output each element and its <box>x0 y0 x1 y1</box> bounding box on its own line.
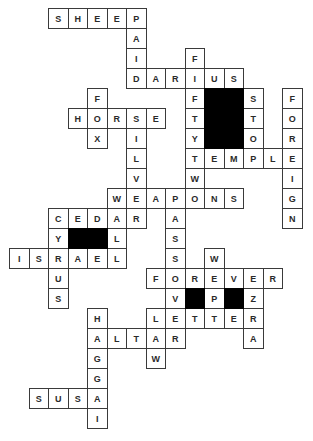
crossword-cell[interactable]: D <box>126 68 147 89</box>
crossword-cell[interactable]: R <box>282 128 303 149</box>
crossword-cell[interactable]: E <box>282 148 303 169</box>
crossword-cell[interactable]: S <box>243 88 264 109</box>
crossword-cell[interactable]: H <box>87 308 108 329</box>
crossword-cell[interactable]: A <box>165 208 186 229</box>
crossword-cell[interactable]: W <box>204 248 225 269</box>
crossword-cell[interactable]: P <box>126 8 147 29</box>
crossword-cell[interactable]: T <box>185 148 206 169</box>
crossword-cell[interactable]: I <box>126 128 147 149</box>
crossword-cell[interactable]: R <box>165 328 186 349</box>
crossword-cell[interactable]: W <box>107 188 128 209</box>
crossword-cell[interactable]: P <box>243 148 264 169</box>
crossword-cell[interactable]: E <box>68 208 89 229</box>
crossword-cell[interactable]: O <box>87 108 108 129</box>
crossword-cell[interactable]: W <box>146 348 167 369</box>
crossword-cell[interactable]: E <box>87 248 108 269</box>
crossword-cell[interactable]: S <box>126 108 147 129</box>
crossword-cell[interactable]: L <box>107 328 128 349</box>
crossword-cell[interactable]: U <box>48 388 69 409</box>
crossword-cell[interactable]: T <box>204 308 225 329</box>
crossword-cell[interactable]: E <box>165 308 186 329</box>
crossword-cell[interactable]: U <box>48 268 69 289</box>
crossword-cell[interactable]: R <box>185 268 206 289</box>
crossword-cell[interactable]: F <box>87 88 108 109</box>
crossword-cell[interactable]: A <box>146 68 167 89</box>
crossword-cell[interactable]: S <box>165 228 186 249</box>
crossword-cell[interactable]: L <box>107 228 128 249</box>
crossword-cell[interactable]: R <box>126 208 147 229</box>
crossword-cell[interactable]: S <box>48 8 69 29</box>
crossword-cell[interactable]: T <box>243 108 264 129</box>
crossword-cell[interactable]: T <box>185 108 206 129</box>
crossword-cell[interactable]: S <box>29 388 50 409</box>
crossword-cell[interactable]: V <box>165 288 186 309</box>
crossword-cell[interactable]: I <box>126 48 147 69</box>
crossword-cell[interactable]: L <box>126 148 147 169</box>
crossword-cell[interactable]: I <box>87 408 108 429</box>
crossword-cell[interactable]: V <box>224 268 245 289</box>
crossword-cell[interactable]: M <box>224 148 245 169</box>
crossword-cell[interactable]: L <box>146 308 167 329</box>
crossword-cell[interactable]: E <box>87 8 108 29</box>
crossword-cell[interactable]: L <box>263 148 284 169</box>
crossword-cell[interactable]: I <box>282 168 303 189</box>
crossword-cell[interactable]: T <box>126 328 147 349</box>
crossword-cell[interactable]: E <box>243 268 264 289</box>
crossword-cell[interactable]: A <box>87 328 108 349</box>
crossword-cell[interactable]: S <box>48 288 69 309</box>
crossword-cell[interactable]: O <box>282 108 303 129</box>
crossword-cell[interactable]: O <box>165 268 186 289</box>
crossword-cell[interactable]: F <box>146 268 167 289</box>
crossword-cell[interactable]: A <box>243 328 264 349</box>
crossword-cell[interactable]: X <box>87 128 108 149</box>
crossword-cell[interactable]: N <box>204 188 225 209</box>
crossword-cell[interactable]: S <box>165 248 186 269</box>
crossword-cell[interactable]: N <box>282 208 303 229</box>
crossword-cell[interactable]: G <box>87 348 108 369</box>
crossword-cell[interactable]: R <box>243 308 264 329</box>
crossword-cell[interactable]: W <box>185 168 206 189</box>
crossword-cell[interactable]: O <box>243 128 264 149</box>
crossword-cell[interactable]: F <box>185 48 206 69</box>
crossword-cell[interactable]: D <box>87 208 108 229</box>
crossword-cell[interactable]: R <box>165 68 186 89</box>
crossword-cell[interactable]: I <box>9 248 30 269</box>
crossword-cell[interactable]: U <box>204 68 225 89</box>
crossword-cell[interactable]: E <box>146 108 167 129</box>
crossword-cell[interactable]: C <box>48 208 69 229</box>
crossword-cell[interactable]: A <box>107 208 128 229</box>
crossword-cell[interactable]: P <box>204 288 225 309</box>
crossword-cell[interactable]: S <box>29 248 50 269</box>
crossword-cell[interactable]: E <box>224 308 245 329</box>
crossword-cell[interactable]: I <box>185 68 206 89</box>
crossword-cell[interactable]: O <box>185 188 206 209</box>
crossword-cell[interactable]: H <box>68 8 89 29</box>
crossword-cell[interactable]: A <box>146 328 167 349</box>
crossword-cell[interactable]: E <box>204 268 225 289</box>
crossword-cell[interactable]: H <box>68 108 89 129</box>
crossword-cell[interactable]: T <box>185 308 206 329</box>
crossword-cell[interactable]: F <box>185 88 206 109</box>
crossword-cell[interactable]: E <box>107 8 128 29</box>
crossword-cell[interactable]: A <box>146 188 167 209</box>
crossword-cell[interactable]: E <box>126 188 147 209</box>
crossword-cell[interactable]: A <box>87 388 108 409</box>
crossword-cell[interactable]: R <box>263 268 284 289</box>
crossword-cell[interactable]: R <box>48 248 69 269</box>
crossword-cell[interactable]: Y <box>48 228 69 249</box>
crossword-cell[interactable]: S <box>224 68 245 89</box>
crossword-cell[interactable]: F <box>282 88 303 109</box>
crossword-cell[interactable]: E <box>204 148 225 169</box>
crossword-cell[interactable]: L <box>107 248 128 269</box>
crossword-cell[interactable]: S <box>224 188 245 209</box>
crossword-cell[interactable]: S <box>68 388 89 409</box>
crossword-cell[interactable]: Z <box>243 288 264 309</box>
crossword-cell[interactable]: P <box>165 188 186 209</box>
crossword-cell[interactable]: G <box>282 188 303 209</box>
crossword-cell[interactable]: V <box>126 168 147 189</box>
crossword-cell[interactable]: Y <box>185 128 206 149</box>
crossword-cell[interactable]: A <box>68 248 89 269</box>
crossword-cell[interactable]: R <box>107 108 128 129</box>
crossword-cell[interactable]: G <box>87 368 108 389</box>
crossword-cell[interactable]: A <box>126 28 147 49</box>
